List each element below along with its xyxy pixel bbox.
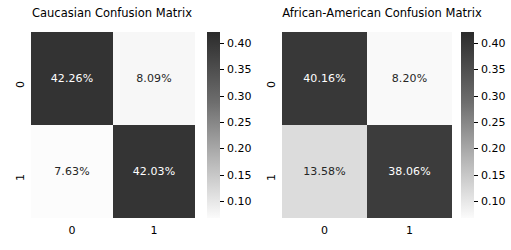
colorbar-tick: 0.30 <box>220 91 252 103</box>
tick-mark-icon <box>220 148 224 149</box>
heatmap-cell: 38.06% <box>367 125 452 218</box>
colorbar-gradient <box>461 32 474 218</box>
colorbar-tick-label: 0.30 <box>481 90 506 103</box>
colorbar-tick-label: 0.10 <box>227 195 252 208</box>
cell-value-label: 42.26% <box>51 72 94 85</box>
tick-mark-icon <box>474 201 478 202</box>
colorbar-tick: 0.15 <box>220 170 252 182</box>
tick-mark-icon <box>474 175 478 176</box>
colorbar-tick-label: 0.20 <box>227 142 252 155</box>
colorbar-tick: 0.15 <box>474 170 506 182</box>
cell-value-label: 13.58% <box>303 165 346 178</box>
colorbar-tick: 0.35 <box>474 64 506 76</box>
colorbar-gradient <box>207 32 220 218</box>
cell-value-label: 8.20% <box>392 72 427 85</box>
tick-mark-icon <box>220 96 224 97</box>
cell-value-label: 8.09% <box>136 72 171 85</box>
colorbar-tick: 0.20 <box>220 143 252 155</box>
x-axis-tick-label: 0 <box>31 224 113 237</box>
heatmap-cell: 8.20% <box>367 32 452 125</box>
colorbar-tick-label: 0.20 <box>481 142 506 155</box>
heatmap-cell: 8.09% <box>113 32 195 125</box>
confusion-matrix-figure: Caucasian Confusion Matrix 42.26% 8.09% … <box>0 0 511 250</box>
colorbar-tick-label: 0.15 <box>227 169 252 182</box>
tick-mark-icon <box>220 43 224 44</box>
colorbar-tick-label: 0.10 <box>481 195 506 208</box>
tick-mark-icon <box>474 69 478 70</box>
x-axis-tick-label: 1 <box>113 224 195 237</box>
panel-african-american: African-American Confusion Matrix 40.16%… <box>256 0 511 250</box>
tick-mark-icon <box>220 122 224 123</box>
colorbar-tick-label: 0.30 <box>227 90 252 103</box>
tick-mark-icon <box>474 43 478 44</box>
colorbar-tick: 0.10 <box>220 196 252 208</box>
heatmap-cell: 42.03% <box>113 125 195 218</box>
colorbar-tick: 0.25 <box>220 117 252 129</box>
colorbar-tick: 0.25 <box>474 117 506 129</box>
heatmap-grid: 42.26% 8.09% 7.63% 42.03% <box>31 32 195 218</box>
heatmap-cell: 42.26% <box>31 32 113 125</box>
y-axis-tick-label: 0 <box>265 78 278 92</box>
tick-mark-icon <box>220 69 224 70</box>
colorbar-tick-label: 0.15 <box>481 169 506 182</box>
tick-mark-icon <box>474 122 478 123</box>
colorbar-tick-label: 0.35 <box>481 63 506 76</box>
x-axis-tick-label: 1 <box>367 224 452 237</box>
cell-value-label: 40.16% <box>303 72 346 85</box>
tick-mark-icon <box>474 96 478 97</box>
tick-mark-icon <box>474 148 478 149</box>
tick-mark-icon <box>220 201 224 202</box>
heatmap-cell: 13.58% <box>282 125 367 218</box>
colorbar-tick: 0.35 <box>220 64 252 76</box>
colorbar-tick: 0.20 <box>474 143 506 155</box>
panel-title: Caucasian Confusion Matrix <box>0 6 224 20</box>
y-axis-tick-label: 1 <box>14 171 27 185</box>
colorbar-tick: 0.30 <box>474 91 506 103</box>
colorbar-tick-label: 0.25 <box>227 116 252 129</box>
panel-title: African-American Confusion Matrix <box>266 6 498 20</box>
y-axis-tick-label: 1 <box>265 171 278 185</box>
cell-value-label: 7.63% <box>54 165 89 178</box>
heatmap-cell: 40.16% <box>282 32 367 125</box>
colorbar-tick-label: 0.25 <box>481 116 506 129</box>
tick-mark-icon <box>220 175 224 176</box>
colorbar: 0.400.350.300.250.200.150.10 <box>207 32 220 218</box>
colorbar-tick: 0.40 <box>474 38 506 50</box>
colorbar-tick-label: 0.35 <box>227 63 252 76</box>
x-axis-tick-label: 0 <box>282 224 367 237</box>
colorbar-tick-labels: 0.400.350.300.250.200.150.10 <box>474 32 511 218</box>
panel-caucasian: Caucasian Confusion Matrix 42.26% 8.09% … <box>0 0 255 250</box>
colorbar-tick-label: 0.40 <box>481 37 506 50</box>
heatmap-grid: 40.16% 8.20% 13.58% 38.06% <box>282 32 452 218</box>
cell-value-label: 42.03% <box>133 165 176 178</box>
heatmap-cell: 7.63% <box>31 125 113 218</box>
cell-value-label: 38.06% <box>388 165 431 178</box>
y-axis-tick-label: 0 <box>14 78 27 92</box>
colorbar-tick: 0.10 <box>474 196 506 208</box>
colorbar-tick: 0.40 <box>220 38 252 50</box>
colorbar-tick-label: 0.40 <box>227 37 252 50</box>
colorbar: 0.400.350.300.250.200.150.10 <box>461 32 474 218</box>
